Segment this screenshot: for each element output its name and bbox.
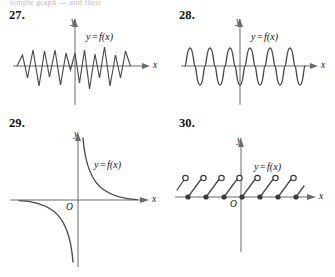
function-label-29: y=f(x) (94, 159, 121, 170)
ramp-segment-6 (278, 178, 292, 197)
ramp-segment-4 (242, 178, 256, 197)
problem-panel-28: 28. y x y=f(x) (167, 6, 335, 110)
ramp-segment-1 (188, 178, 202, 197)
function-label-rhs-28: f(x) (264, 31, 278, 42)
function-label-rhs-30: f(x) (267, 161, 281, 172)
function-label-28: y=f(x) (251, 31, 278, 42)
graph-30 (167, 112, 335, 277)
y-axis-label-28: y (236, 16, 240, 26)
function-label-rhs-29: f(x) (107, 159, 121, 170)
y-axis-label-29: y (74, 129, 78, 139)
graph-28 (167, 6, 335, 110)
origin-label-29: O (66, 202, 73, 212)
closed-dot (257, 194, 262, 199)
x-axis-label-27: x (153, 60, 157, 70)
problem-panel-29: 29. y x O y=f(x) (0, 112, 167, 277)
ramp-segment-5 (260, 178, 274, 197)
x-axis-label-29: x (152, 194, 156, 204)
hyperbola-branch-quadrant-3 (19, 201, 73, 262)
open-circle (291, 175, 296, 180)
y-axis-label-27: y (71, 16, 75, 26)
function-label-eq-28: = (255, 31, 264, 42)
open-circle (255, 175, 260, 180)
x-axis-arrow-27 (142, 63, 150, 69)
ramp-segment-3 (224, 178, 238, 197)
open-circle (183, 175, 188, 180)
problem-panel-30: 30. (167, 112, 335, 277)
ramp-segment-partial-left (177, 180, 184, 190)
x-axis-label-28: x (321, 60, 325, 70)
x-axis-arrow-28 (310, 63, 318, 69)
closed-dot (185, 194, 190, 199)
graph-27 (0, 6, 167, 110)
ramp-segment-2 (206, 178, 220, 197)
zigzag-curve-27 (17, 47, 131, 89)
x-axis-arrow-30 (307, 194, 316, 200)
open-circle (237, 175, 242, 180)
open-circle (201, 175, 206, 180)
function-label-rhs-27: f(x) (99, 31, 113, 42)
open-circle (273, 175, 278, 180)
function-label-eq-30: = (258, 161, 267, 172)
function-label-27: y=f(x) (86, 31, 113, 42)
closed-dot (221, 194, 226, 199)
closed-dot (293, 194, 298, 199)
function-label-eq-27: = (90, 31, 99, 42)
problem-panel-27: 27. y x y=f(x) (0, 6, 167, 110)
origin-label-30: O (230, 199, 237, 209)
graph-29 (0, 112, 167, 277)
axes-29 (10, 134, 140, 267)
exercise-figure-page: simple graph — and their 27. y x y=f(x) … (0, 0, 335, 277)
axes-27 (13, 20, 142, 105)
y-axis-label-30: y (237, 135, 241, 145)
closed-dot (275, 194, 280, 199)
open-circle (219, 175, 224, 180)
closed-dot (239, 194, 244, 199)
closed-dot (203, 194, 208, 199)
function-label-eq-29: = (98, 159, 107, 170)
function-label-30: y=f(x) (254, 161, 281, 172)
x-axis-arrow-29 (140, 197, 149, 203)
x-axis-label-30: x (319, 191, 323, 201)
